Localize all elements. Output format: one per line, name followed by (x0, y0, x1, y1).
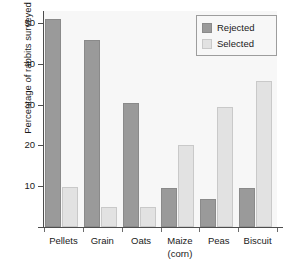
x-axis-tick (83, 228, 84, 232)
x-axis-tick (277, 228, 278, 232)
y-axis-tick (38, 145, 44, 146)
legend-label-rejected: Rejected (217, 22, 255, 33)
bar-grain-selected (101, 207, 117, 227)
bar-biscuit-rejected (239, 188, 255, 227)
bar-peas-rejected (200, 199, 216, 227)
y-axis-tick (38, 105, 44, 106)
y-axis-tick (38, 23, 44, 24)
y-axis-tick-label: 50 (0, 17, 35, 28)
y-axis-tick-label: 30 (0, 99, 35, 110)
bar-grain-rejected (84, 40, 100, 227)
legend-swatch-rejected (202, 23, 212, 33)
bar-maize-corn-rejected (161, 188, 177, 227)
legend-swatch-selected (202, 39, 212, 49)
x-axis-tick (122, 228, 123, 232)
legend-label-selected: Selected (217, 38, 254, 49)
legend-item-selected: Selected (202, 37, 270, 50)
y-axis-tick (38, 64, 44, 65)
bar-biscuit-selected (256, 81, 272, 227)
x-axis-tick (238, 228, 239, 232)
bar-oats-selected (140, 207, 156, 227)
y-axis-tick (38, 186, 44, 187)
bar-pellets-rejected (45, 19, 61, 227)
x-axis-tick (161, 228, 162, 232)
x-axis-tick (44, 228, 45, 232)
y-axis-line (43, 11, 44, 228)
legend: Rejected Selected (196, 15, 277, 56)
y-axis-tick-label: 10 (0, 180, 35, 191)
bar-peas-selected (217, 107, 233, 227)
y-axis-tick-label: 40 (0, 58, 35, 69)
legend-item-rejected: Rejected (202, 21, 270, 34)
bar-oats-rejected (123, 103, 139, 227)
x-axis-label: Biscuit (218, 235, 287, 246)
bar-pellets-selected (62, 187, 78, 227)
bar-maize-corn-selected (178, 145, 194, 227)
bar-chart: Percentage of rabbits surveyed 102030405… (0, 0, 287, 271)
y-axis-tick-label: 20 (0, 139, 35, 150)
x-axis-tick (199, 228, 200, 232)
